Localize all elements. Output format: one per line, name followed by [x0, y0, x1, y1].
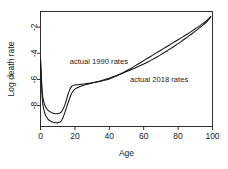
x-tick-label: 40: [105, 131, 115, 141]
chart-screenshot: -2-4-6-8 020406080100 actual 1990 ratesa…: [0, 0, 228, 169]
x-tick-label: 60: [139, 131, 149, 141]
x-tick-label: 80: [173, 131, 183, 141]
annotation-label-1: actual 1990 rates: [70, 57, 128, 66]
y-axis-title: Log death rate: [6, 41, 16, 96]
y-tick-label: -4: [30, 49, 40, 57]
x-tick-label: 100: [205, 131, 219, 141]
x-tick-label: 0: [38, 131, 43, 141]
y-tick-label: -8: [30, 102, 40, 110]
y-tick-label: -6: [30, 75, 40, 83]
y-tick-label: -2: [30, 23, 40, 31]
annotation-label-2: actual 2018 rates: [130, 75, 188, 84]
x-axis-title: Age: [119, 148, 134, 158]
mortality-log-death-rate-chart: -2-4-6-8 020406080100 actual 1990 ratesa…: [0, 0, 228, 169]
x-tick-label: 20: [70, 131, 80, 141]
